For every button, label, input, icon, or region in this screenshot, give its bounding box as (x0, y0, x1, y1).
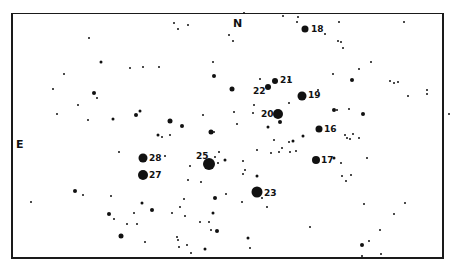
field-star (118, 151, 120, 153)
field-star (112, 118, 115, 121)
labeled-star-18 (302, 26, 309, 33)
star-label-25: 25 (196, 152, 209, 161)
field-star (336, 109, 338, 111)
field-star (92, 91, 96, 95)
field-star (366, 157, 368, 159)
field-star (341, 175, 343, 177)
field-star (177, 239, 179, 241)
field-star (177, 28, 179, 30)
labeled-star-22 (265, 84, 271, 90)
field-star (158, 66, 160, 68)
field-star (215, 229, 219, 233)
field-star (297, 16, 299, 18)
field-star (340, 41, 342, 43)
field-star (168, 119, 173, 124)
field-star (150, 208, 154, 212)
field-star (426, 93, 428, 95)
field-star (202, 114, 204, 116)
field-star (134, 113, 138, 117)
field-star (212, 74, 216, 78)
field-star (407, 95, 409, 97)
field-star (213, 196, 217, 200)
field-star (346, 137, 348, 139)
field-star (82, 194, 84, 196)
chart-frame (11, 13, 444, 259)
field-star (360, 243, 364, 247)
field-star (393, 213, 395, 215)
field-star (100, 61, 103, 64)
field-star (332, 73, 334, 75)
field-star (338, 21, 340, 23)
star-label-20: 20 (261, 110, 274, 119)
field-star (370, 61, 372, 63)
field-star (213, 131, 215, 133)
field-star (110, 195, 112, 197)
field-star (88, 37, 90, 39)
star-label-21: 21 (280, 76, 293, 85)
field-star (295, 150, 297, 152)
star-label-22: 22 (253, 87, 266, 96)
field-star (259, 78, 261, 80)
direction-label-n: N (233, 18, 242, 29)
field-star (157, 134, 160, 137)
field-star (63, 73, 65, 75)
field-star (56, 113, 58, 115)
field-star (242, 173, 244, 175)
field-star (200, 181, 202, 183)
field-star (342, 47, 344, 49)
labeled-star-27 (138, 170, 148, 180)
field-star (324, 33, 326, 35)
field-star (361, 112, 365, 116)
field-star (189, 165, 191, 167)
field-star (281, 147, 283, 149)
field-star (242, 160, 244, 162)
field-star (218, 151, 220, 153)
labeled-star-19 (298, 92, 307, 101)
field-star (358, 68, 360, 70)
field-star (96, 97, 98, 99)
field-star (292, 140, 295, 143)
field-star (282, 15, 284, 17)
field-star (236, 123, 238, 125)
field-star (348, 108, 350, 110)
field-star (379, 229, 381, 231)
field-star (344, 134, 346, 136)
field-star (87, 119, 89, 121)
field-star (208, 221, 210, 223)
field-star (224, 159, 227, 162)
labeled-star-16 (316, 126, 323, 133)
field-star (30, 201, 32, 203)
star-label-17: 17 (321, 156, 334, 165)
field-star (183, 198, 185, 200)
field-star (288, 141, 290, 143)
labeled-star-20 (273, 109, 283, 119)
field-star (126, 223, 128, 225)
field-star (212, 212, 215, 215)
field-star (261, 197, 263, 199)
field-star (256, 175, 259, 178)
field-star (243, 12, 245, 14)
field-star (256, 149, 258, 151)
field-star (361, 255, 363, 257)
field-star (142, 66, 144, 68)
field-star (190, 252, 192, 254)
labeled-star-21 (272, 78, 278, 84)
field-star (187, 24, 189, 26)
field-star (393, 82, 395, 84)
labeled-star-23 (252, 187, 263, 198)
field-star (278, 151, 280, 153)
field-star (173, 22, 175, 24)
field-star (404, 202, 406, 204)
field-star (186, 244, 188, 246)
field-star (232, 40, 234, 42)
field-star (403, 21, 405, 23)
star-label-19: 19 (308, 91, 321, 100)
field-star (180, 124, 184, 128)
field-star (296, 21, 298, 23)
field-star (141, 202, 144, 205)
field-star (204, 248, 207, 251)
field-star (253, 104, 255, 106)
field-star (349, 138, 351, 140)
field-star (73, 189, 77, 193)
star-label-16: 16 (324, 125, 337, 134)
